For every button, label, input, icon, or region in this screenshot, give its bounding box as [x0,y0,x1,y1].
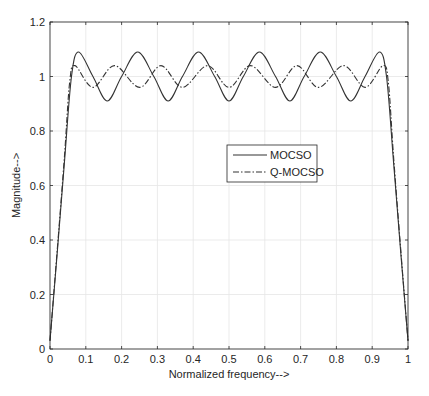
x-axis-label: Normalized frequency--> [169,368,290,380]
x-tick-label: 0.2 [114,353,129,365]
legend-label-q-mocso: Q-MOCSO [270,166,324,178]
y-tick-label: 1 [39,71,45,83]
x-tick-label: 0.6 [257,353,272,365]
x-tick-label: 0.1 [78,353,93,365]
legend: MOCSO Q-MOCSO [227,145,324,182]
x-tick-label: 0 [47,353,53,365]
x-tick-label: 0.9 [365,353,380,365]
x-tick-label: 1 [405,353,411,365]
y-tick-label: 0.2 [30,289,45,301]
legend-label-mocso: MOCSO [270,149,312,161]
chart-figure: 00.10.20.30.40.50.60.70.80.9100.20.40.60… [0,0,429,396]
x-tick-label: 0.8 [329,353,344,365]
y-tick-label: 0.6 [30,180,45,192]
figure-background [0,0,429,396]
x-tick-label: 0.7 [293,353,308,365]
y-tick-label: 0.8 [30,125,45,137]
y-tick-label: 0 [39,343,45,355]
x-tick-label: 0.4 [186,353,201,365]
y-tick-label: 1.2 [30,16,45,28]
y-axis-label: Magnitude--> [10,153,22,218]
x-tick-label: 0.5 [221,353,236,365]
x-tick-label: 0.3 [150,353,165,365]
y-tick-label: 0.4 [30,234,45,246]
